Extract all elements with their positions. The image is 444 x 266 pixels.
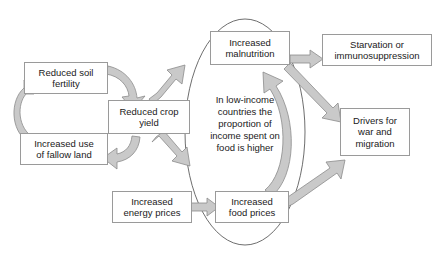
node-reduced-soil-fertility[interactable]: Reduced soil fertility: [24, 62, 108, 94]
node-increased-malnutrition[interactable]: Increased malnutrition: [210, 31, 290, 65]
arrow-food-prices-to-drivers: [285, 160, 345, 206]
node-increased-energy-prices[interactable]: Increased energy prices: [112, 191, 192, 223]
arrow-crop-to-malnutrition: [149, 65, 185, 104]
node-label: Increased use of fallow land: [34, 138, 94, 161]
node-increased-food-prices[interactable]: Increased food prices: [215, 191, 289, 223]
node-label: Drivers for war and migration: [353, 115, 397, 150]
node-label: Increased food prices: [229, 196, 275, 219]
arrow-malnutrition-to-starvation: [290, 50, 323, 68]
node-label: Increased energy prices: [123, 196, 180, 219]
node-reduced-crop-yield[interactable]: Reduced crop yield: [108, 100, 190, 134]
node-starvation-or-immunosuppression[interactable]: Starvation or immunosuppression: [322, 34, 432, 66]
node-label: Reduced crop yield: [119, 106, 178, 129]
low-income-note-text: In low-income countries the proportion o…: [192, 94, 298, 154]
node-drivers-for-war-and-migration[interactable]: Drivers for war and migration: [340, 108, 410, 156]
node-label: Starvation or immunosuppression: [334, 39, 419, 62]
causal-loop-diagram: Reduced soil fertility Increased use of …: [0, 0, 444, 266]
node-label: Increased malnutrition: [225, 37, 274, 60]
node-increased-use-fallow-land[interactable]: Increased use of fallow land: [20, 133, 108, 165]
arrow-crop-to-fallow: [103, 136, 140, 169]
arrow-crop-to-food-prices: [152, 131, 190, 166]
node-label: Reduced soil fertility: [39, 67, 94, 90]
